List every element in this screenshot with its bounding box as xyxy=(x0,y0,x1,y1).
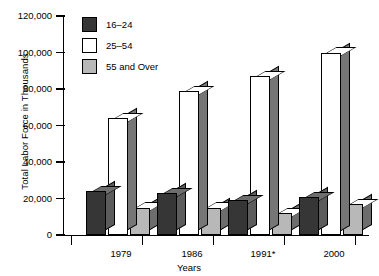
bar-1991-series-1 xyxy=(228,200,248,235)
x-tick-label: 2000 xyxy=(304,249,364,259)
x-tick-mark xyxy=(213,236,214,245)
x-tick-label: 1979 xyxy=(91,249,151,259)
bar-1986-series-1 xyxy=(157,193,177,235)
bar-front-face xyxy=(157,193,177,235)
x-axis-title: Years xyxy=(0,262,378,273)
y-tick-label: 0 xyxy=(0,230,52,240)
legend-swatch-icon xyxy=(82,38,97,53)
x-tick-label: 1986 xyxy=(162,249,222,259)
bar-side-face xyxy=(128,108,137,230)
bar-side-face xyxy=(199,81,208,230)
legend-item-label: 25–54 xyxy=(106,40,132,51)
y-tick-label: 100,000 xyxy=(0,48,52,58)
bar-front-face xyxy=(86,191,106,235)
y-tick-label: 80,000 xyxy=(0,84,52,94)
y-tick-label: 40,000 xyxy=(0,157,52,167)
x-tick-mark xyxy=(284,236,285,245)
y-tick-label: 20,000 xyxy=(0,194,52,204)
y-tick-label: 60,000 xyxy=(0,121,52,131)
x-tick-mark xyxy=(71,236,72,245)
x-tick-label: 1991* xyxy=(233,249,293,259)
legend: 16–24 25–54 55 and Over xyxy=(82,14,158,77)
bar-1979-series-1 xyxy=(86,191,106,235)
bar-2000-series-1 xyxy=(299,197,319,235)
bar-side-face xyxy=(341,42,350,230)
legend-swatch-icon xyxy=(82,17,97,32)
legend-swatch-icon xyxy=(82,59,97,74)
legend-item-55-and-over: 55 and Over xyxy=(82,56,158,77)
legend-item-label: 16–24 xyxy=(106,19,132,30)
x-axis-line xyxy=(63,235,369,236)
legend-item-16-24: 16–24 xyxy=(82,14,158,35)
bar-side-face xyxy=(270,66,279,230)
bar-front-face xyxy=(228,200,248,235)
x-tick-mark xyxy=(142,236,143,245)
x-tick-mark xyxy=(355,236,356,245)
y-tick-label: 120,000 xyxy=(0,11,52,21)
legend-item-25-54: 25–54 xyxy=(82,35,158,56)
bar-front-face xyxy=(299,197,319,235)
legend-item-label: 55 and Over xyxy=(106,61,158,72)
